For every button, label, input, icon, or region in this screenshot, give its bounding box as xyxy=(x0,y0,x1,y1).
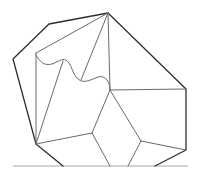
edge-bottom-left-to-mid-left xyxy=(36,133,92,144)
geometric-diagram xyxy=(0,0,199,182)
edge-mid-right-to-bottom-right xyxy=(141,141,186,150)
edge-center-to-right xyxy=(110,89,186,90)
edge-top-to-curve-trough xyxy=(81,13,108,80)
edge-mid-left-to-baseline xyxy=(92,133,110,166)
edge-top-to-center xyxy=(108,13,110,90)
edge-mid-right-to-baseline xyxy=(128,141,141,166)
edge-top-to-inner-top-left xyxy=(36,13,108,53)
edge-center-to-mid-left xyxy=(92,90,110,133)
edge-center-to-mid-right xyxy=(110,90,141,141)
edge-curve-peak-to-bottom-left xyxy=(36,61,63,144)
wavy-curve xyxy=(36,55,110,90)
